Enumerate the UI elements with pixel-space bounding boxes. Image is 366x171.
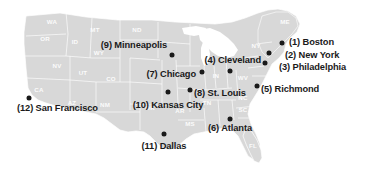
city-label-dallas: (11) Dallas	[142, 142, 187, 151]
state-abbr-wa: WA	[47, 18, 58, 25]
city-label-kansas-city: (10) Kansas City	[133, 101, 204, 110]
state-abbr-ca: CA	[34, 86, 44, 93]
city-label-atlanta: (6) Atlanta	[208, 124, 252, 133]
city-dot-philadelphia[interactable]	[263, 61, 267, 65]
city-dot-richmond[interactable]	[255, 84, 259, 88]
state-abbr-id: ID	[72, 38, 79, 45]
state-abbr-co: CO	[106, 75, 116, 82]
city-dot-dallas[interactable]	[162, 132, 166, 136]
state-abbr-mt: MT	[90, 26, 99, 33]
city-label-san-francisco: (12) San Francisco	[17, 104, 98, 113]
state-abbr-or: OR	[40, 35, 50, 42]
city-dot-st-louis[interactable]	[188, 88, 192, 92]
city-label-philadelphia: (3) Philadelphia	[279, 63, 346, 72]
state-abbr-ms: MS	[185, 120, 195, 127]
state-abbr-tn: TN	[203, 99, 212, 106]
state-abbr-sc: SC	[239, 106, 248, 113]
city-label-minneapolis: (9) Minneapolis	[101, 41, 167, 50]
usa-city-map-figure: WAORIDMTNDSDWYNVUTCOCAAZNMOKARTNINWVNYME…	[0, 0, 366, 171]
state-abbr-nm: NM	[100, 101, 110, 108]
city-label-boston: (1) Boston	[289, 38, 334, 47]
city-dot-boston[interactable]	[280, 41, 284, 45]
city-dot-new-york[interactable]	[267, 51, 271, 55]
state-abbr-ut: UT	[79, 69, 88, 76]
state-abbr-in: IN	[213, 72, 220, 79]
city-label-cleveland: (4) Cleveland	[204, 56, 261, 65]
city-label-st-louis: (8) St. Louis	[194, 89, 246, 98]
city-dot-san-francisco[interactable]	[27, 96, 31, 100]
city-dot-kansas-city[interactable]	[166, 90, 170, 94]
state-abbr-nv: NV	[53, 62, 63, 69]
state-abbr-wv: WV	[238, 74, 249, 81]
city-dot-minneapolis[interactable]	[170, 53, 174, 57]
state-abbr-nd: ND	[132, 26, 142, 33]
city-dot-cleveland[interactable]	[228, 69, 232, 73]
city-label-chicago: (7) Chicago	[146, 70, 196, 79]
city-dot-atlanta[interactable]	[228, 117, 232, 121]
city-label-richmond: (5) Richmond	[261, 85, 319, 94]
city-dot-chicago[interactable]	[200, 70, 204, 74]
state-abbr-ny: NY	[252, 42, 262, 49]
state-abbr-me: ME	[280, 18, 290, 25]
state-abbr-fl: FL	[249, 142, 257, 149]
city-label-new-york: (2) New York	[285, 51, 339, 60]
